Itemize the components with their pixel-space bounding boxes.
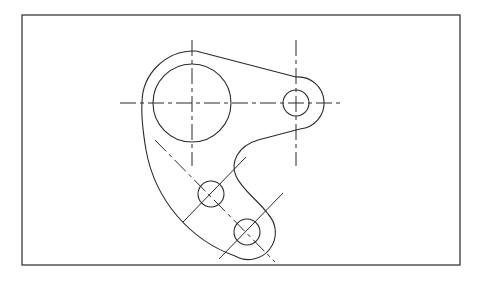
top-tangent-line bbox=[196, 51, 296, 77]
hole2-cross-centerline bbox=[219, 193, 283, 259]
hole1-cross-centerline bbox=[183, 157, 246, 222]
small-hole-2-circle bbox=[234, 219, 260, 245]
inner-concave-curve bbox=[234, 140, 268, 214]
centerlines bbox=[120, 40, 341, 262]
technical-drawing bbox=[0, 0, 479, 306]
part-outline bbox=[142, 51, 324, 260]
lower-tangent-line bbox=[258, 129, 300, 140]
large-boss-arc bbox=[142, 51, 196, 103]
outer-left-sweep-arc bbox=[142, 103, 235, 256]
